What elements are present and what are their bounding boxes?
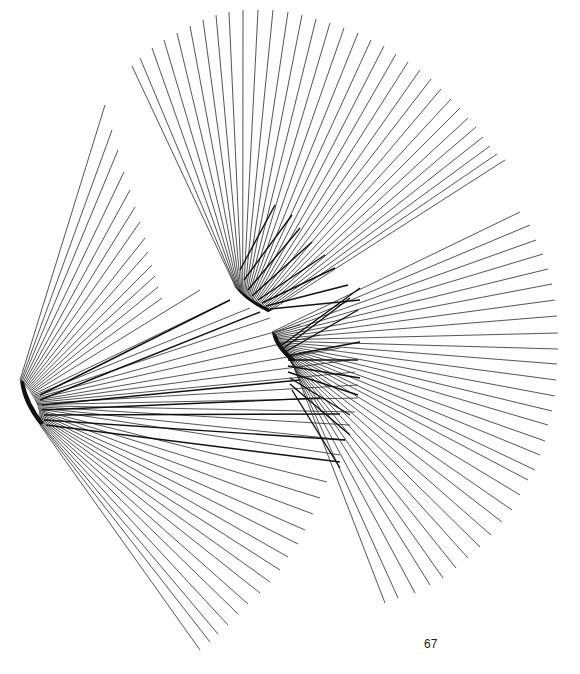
book-page: 67 [0, 0, 580, 674]
fan-line [253, 54, 396, 303]
fan-line [39, 412, 313, 514]
radial-line-artwork [0, 0, 580, 674]
fan-line [216, 15, 241, 293]
fan-line [281, 350, 528, 480]
fan-line [40, 425, 200, 650]
fan-line [25, 207, 135, 385]
fan-line [164, 40, 238, 290]
fan-line [287, 357, 456, 568]
fan-line [29, 276, 155, 391]
top-fan [132, 10, 505, 312]
fan-line [40, 422, 228, 625]
fan-line [190, 26, 240, 292]
fan-line [249, 28, 344, 300]
fan-line [132, 66, 236, 288]
fan-line [252, 46, 384, 302]
right-fan [272, 212, 558, 603]
fan-dense-line [282, 288, 360, 345]
fan-line [263, 127, 476, 309]
fan-line [246, 15, 302, 298]
page-number: 67 [424, 637, 438, 651]
fan-pivot [20, 380, 44, 425]
fan-line [152, 48, 237, 290]
fan-line [259, 99, 451, 307]
fan-dense-line [286, 342, 360, 356]
fan-line [23, 172, 124, 383]
fan-line [38, 408, 345, 440]
fan-line [20, 105, 105, 380]
fan-line [40, 420, 248, 604]
fan-dense-line [284, 298, 350, 348]
fan-line [291, 361, 398, 598]
fan-line [40, 419, 260, 593]
fan-line [40, 415, 289, 557]
fan-line [203, 20, 240, 293]
fan-line [229, 12, 242, 294]
fan-line [30, 298, 162, 393]
fan-line [40, 423, 218, 634]
fan-line [274, 300, 555, 338]
fan-line [256, 70, 421, 305]
fan-line [262, 118, 468, 308]
fan-line [37, 406, 355, 412]
fan-line [33, 318, 270, 397]
fan-line [277, 343, 556, 380]
fan-line [244, 10, 259, 296]
fan-line [273, 240, 536, 334]
fan-line [267, 154, 497, 311]
fan-dense-line [44, 414, 340, 415]
fan-line [140, 58, 237, 289]
fan-line [286, 356, 468, 558]
fan-line [290, 360, 415, 593]
fan-line [24, 190, 130, 384]
